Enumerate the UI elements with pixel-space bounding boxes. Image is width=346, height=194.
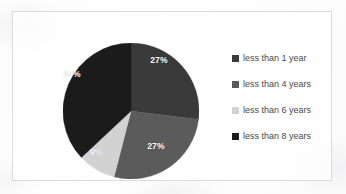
legend-item[interactable]: less than 4 years: [232, 79, 342, 89]
pie-slice-label: 37%: [63, 69, 81, 79]
pie-plot-area: [63, 43, 199, 179]
chart-legend: less than 1 yearless than 4 yearsless th…: [232, 53, 342, 141]
pie-slice-label: 27%: [150, 55, 168, 65]
pie-slice-group: [63, 43, 199, 179]
pie-chart-figure: less than 1 yearless than 4 yearsless th…: [0, 0, 346, 194]
legend-item-label: less than 6 years: [243, 105, 311, 115]
legend-item[interactable]: less than 1 year: [232, 53, 342, 63]
pie-slice-label: 27%: [147, 141, 165, 151]
legend-item-label: less than 8 years: [243, 131, 311, 141]
legend-item[interactable]: less than 8 years: [232, 131, 342, 141]
legend-item-label: less than 1 year: [243, 53, 307, 63]
legend-swatch-icon: [232, 107, 239, 114]
legend-swatch-icon: [232, 55, 239, 62]
legend-swatch-icon: [232, 133, 239, 140]
legend-item[interactable]: less than 6 years: [232, 105, 342, 115]
chart-plot-frame: less than 1 yearless than 4 yearsless th…: [12, 11, 332, 181]
legend-swatch-icon: [232, 81, 239, 88]
pie-svg: [63, 43, 199, 179]
pie-slice-label: 9%: [90, 147, 103, 157]
legend-item-label: less than 4 years: [243, 79, 311, 89]
